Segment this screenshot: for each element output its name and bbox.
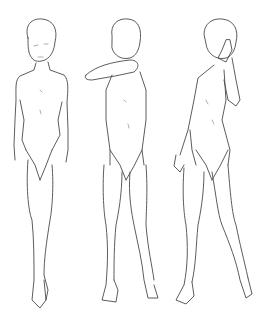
figure-center <box>85 19 158 302</box>
figure-sketch-image: Line-art sketch of three standing figure… <box>0 0 266 324</box>
sketch-drawing <box>0 0 266 324</box>
figure-left <box>14 19 68 308</box>
figure-right <box>174 19 252 304</box>
